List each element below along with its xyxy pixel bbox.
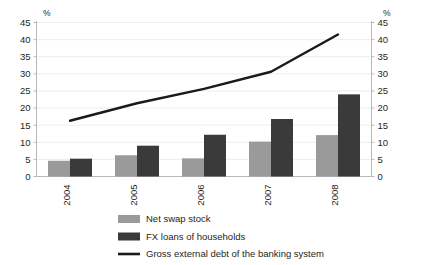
chart-container: 051015202530354045 051015202530354045 20… [0,0,431,265]
y-tick-label-right-10: 10 [378,137,389,148]
y-tick-label-right-30: 30 [378,68,389,79]
bar-2005-series-1 [115,155,137,176]
bar-2008-series-2 [338,94,360,176]
legend-swatch-1 [118,215,140,223]
chart-canvas: 051015202530354045 051015202530354045 20… [0,0,431,265]
y-axis-left-unit-label: % [43,8,51,18]
bar-2007-series-2 [271,119,293,176]
y-tick-label-right-20: 20 [378,102,389,113]
y-tick-label-right-25: 25 [378,85,389,96]
y-tick-label-right-40: 40 [378,34,389,45]
y-tick-label-left-40: 40 [20,34,31,45]
bar-2008-series-1 [316,135,338,176]
bar-2006-series-2 [204,135,226,177]
legend-label-3: Gross external debt of the banking syste… [146,248,324,259]
x-axis-label-2007: 2007 [262,185,273,206]
y-tick-label-left-10: 10 [20,137,31,148]
legend-label-1: Net swap stock [146,213,211,224]
x-axis-label-2008: 2008 [329,185,340,206]
y-tick-label-left-0: 0 [25,171,30,182]
x-axis-label-2006: 2006 [195,185,206,206]
legend-swatch-2 [118,233,140,241]
bar-2004-series-1 [48,161,70,177]
x-axis-label-2005: 2005 [128,185,139,206]
y-tick-label-right-5: 5 [378,154,383,165]
y-tick-label-left-20: 20 [20,102,31,113]
y-tick-label-left-45: 45 [20,17,31,28]
y-tick-label-left-15: 15 [20,120,31,131]
y-tick-label-left-35: 35 [20,51,31,62]
y-axis-right-unit-label: % [383,8,391,18]
y-tick-label-right-45: 45 [378,17,389,28]
y-tick-label-left-5: 5 [25,154,30,165]
bar-2007-series-1 [249,142,271,177]
y-tick-label-left-30: 30 [20,68,31,79]
y-tick-label-left-25: 25 [20,85,31,96]
legend-label-2: FX loans of households [146,231,246,242]
x-axis-label-2004: 2004 [61,185,72,206]
bar-2004-series-2 [70,159,92,177]
bar-2005-series-2 [137,146,159,177]
y-tick-label-right-35: 35 [378,51,389,62]
y-tick-label-right-0: 0 [378,171,383,182]
bar-2006-series-1 [182,158,204,176]
y-tick-label-right-15: 15 [378,120,389,131]
